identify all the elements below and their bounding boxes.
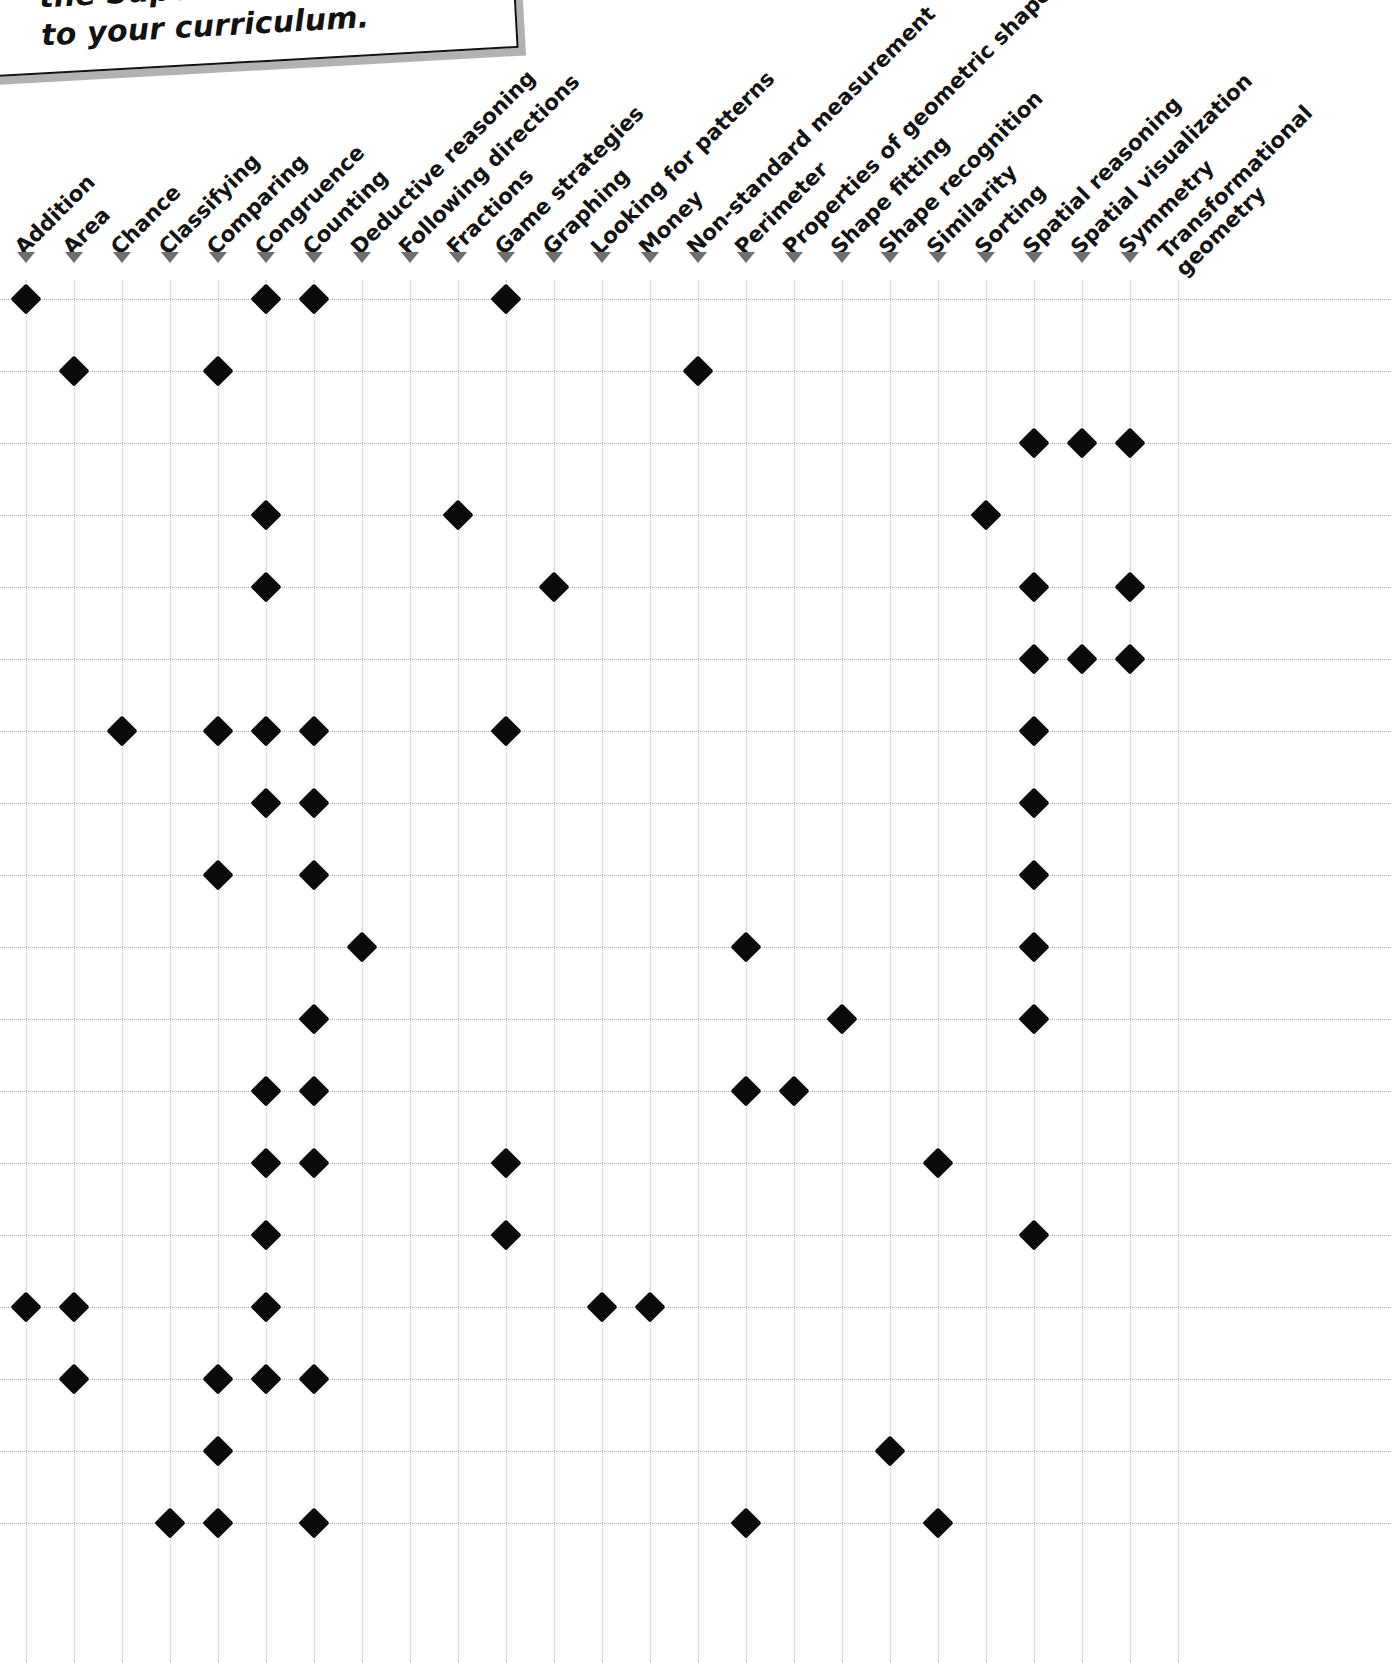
grid-row-line: [0, 803, 1391, 804]
grid-column-line: [1082, 280, 1083, 1663]
column-arrow-perimeter: [737, 252, 755, 263]
diamond-icon: [250, 1075, 281, 1106]
skills-grid: [0, 280, 1391, 1663]
grid-column-line: [314, 280, 315, 1663]
column-arrow-spatial-visualization: [1073, 252, 1091, 263]
column-arrow-addition: [17, 252, 35, 263]
diamond-icon: [922, 1507, 953, 1538]
grid-row-line: [0, 1163, 1391, 1164]
column-arrow-sorting: [977, 252, 995, 263]
grid-column-line: [410, 280, 411, 1663]
diamond-icon: [1018, 427, 1049, 458]
diamond-icon: [1114, 571, 1145, 602]
diamond-icon: [586, 1291, 617, 1322]
diamond-icon: [778, 1075, 809, 1106]
column-arrow-counting: [305, 252, 323, 263]
diamond-icon: [1018, 1219, 1049, 1250]
grid-row-line: [0, 443, 1391, 444]
diamond-icon: [106, 715, 137, 746]
diamond-icon: [1018, 571, 1049, 602]
column-arrow-game-strategies: [497, 252, 515, 263]
diamond-icon: [202, 859, 233, 890]
diamond-icon: [154, 1507, 185, 1538]
diamond-icon: [298, 859, 329, 890]
diamond-icon: [970, 499, 1001, 530]
diamond-icon: [682, 355, 713, 386]
column-arrow-non-standard-measurement: [689, 252, 707, 263]
diamond-icon: [1018, 643, 1049, 674]
column-arrow-classifying: [161, 252, 179, 263]
diamond-icon: [250, 283, 281, 314]
grid-row-line: [0, 587, 1391, 588]
diamond-icon: [490, 1147, 521, 1178]
diamond-icon: [250, 571, 281, 602]
diamond-icon: [298, 715, 329, 746]
diamond-icon: [730, 1075, 761, 1106]
diamond-icon: [442, 499, 473, 530]
grid-column-line: [602, 280, 603, 1663]
column-arrow-graphing: [545, 252, 563, 263]
grid-column-line: [266, 280, 267, 1663]
grid-column-line: [650, 280, 651, 1663]
column-arrow-congruence: [257, 252, 275, 263]
grid-column-line: [506, 280, 507, 1663]
diamond-icon: [1018, 859, 1049, 890]
grid-column-line: [698, 280, 699, 1663]
column-arrow-deductive-reasoning: [353, 252, 371, 263]
diamond-icon: [1018, 931, 1049, 962]
column-arrow-comparing: [209, 252, 227, 263]
diamond-icon: [58, 355, 89, 386]
diamond-icon: [298, 283, 329, 314]
grid-column-line: [554, 280, 555, 1663]
diamond-icon: [202, 355, 233, 386]
diamond-icon: [730, 1507, 761, 1538]
column-arrow-chance: [113, 252, 131, 263]
diamond-icon: [1018, 715, 1049, 746]
column-arrow-money: [641, 252, 659, 263]
diamond-icon: [202, 1363, 233, 1394]
diamond-icon: [1066, 643, 1097, 674]
column-arrow-area: [65, 252, 83, 263]
grid-row-line: [0, 1019, 1391, 1020]
column-arrow-fractions: [449, 252, 467, 263]
grid-row-line: [0, 1235, 1391, 1236]
grid-row-line: [0, 659, 1391, 660]
grid-column-line: [26, 280, 27, 1663]
grid-column-line: [122, 280, 123, 1663]
diamond-icon: [250, 1147, 281, 1178]
grid-column-line: [1130, 280, 1131, 1663]
diamond-icon: [250, 1291, 281, 1322]
diamond-icon: [298, 787, 329, 818]
diamond-icon: [298, 1003, 329, 1034]
grid-column-line: [362, 280, 363, 1663]
diamond-icon: [490, 283, 521, 314]
grid-column-line: [794, 280, 795, 1663]
diamond-icon: [298, 1075, 329, 1106]
diamond-icon: [58, 1363, 89, 1394]
diamond-icon: [1018, 1003, 1049, 1034]
diamond-icon: [826, 1003, 857, 1034]
diamond-icon: [202, 1507, 233, 1538]
grid-column-line: [1034, 280, 1035, 1663]
diamond-icon: [298, 1363, 329, 1394]
diamond-icon: [874, 1435, 905, 1466]
grid-row-line: [0, 515, 1391, 516]
diamond-icon: [250, 1219, 281, 1250]
diamond-icon: [298, 1147, 329, 1178]
diamond-icon: [10, 1291, 41, 1322]
diamond-icon: [250, 715, 281, 746]
diamond-icon: [490, 715, 521, 746]
diamond-icon: [250, 499, 281, 530]
diamond-icon: [490, 1219, 521, 1250]
column-arrow-spatial-reasoning: [1025, 252, 1043, 263]
column-arrow-looking-for-patterns: [593, 252, 611, 263]
diamond-icon: [634, 1291, 665, 1322]
grid-row-line: [0, 947, 1391, 948]
diamond-icon: [250, 1363, 281, 1394]
diamond-icon: [922, 1147, 953, 1178]
diamond-icon: [1018, 787, 1049, 818]
column-arrow-symmetry: [1121, 252, 1139, 263]
grid-column-line: [986, 280, 987, 1663]
grid-column-line: [458, 280, 459, 1663]
grid-row-line: [0, 1307, 1391, 1308]
